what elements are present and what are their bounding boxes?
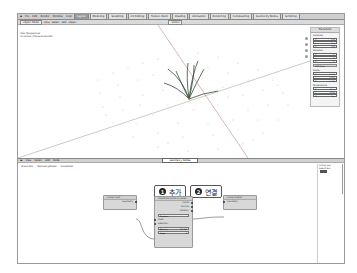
viewport-info: User Perspective (1) Grass | Plane.Grass… (20, 32, 53, 38)
rotation-z-field[interactable]: Z0° (313, 60, 337, 63)
menu-help[interactable]: Help (65, 14, 73, 19)
menu-render[interactable]: Render (39, 14, 50, 19)
pan-icon[interactable] (305, 43, 308, 46)
mode-dropdown[interactable]: Object Mode (20, 20, 42, 25)
menu-view[interactable]: View (44, 21, 50, 24)
ortho-icon[interactable] (305, 55, 308, 58)
rotation-output-socket[interactable]: Rotation (155, 209, 192, 213)
tab-sculpting[interactable]: Sculpting (108, 13, 126, 20)
transform-panel: Transform Location X0 m Y0 m Z0 m Rotati… (310, 27, 340, 107)
blender-window: ◆ File Edit Render Window Help Layout Mo… (17, 13, 345, 264)
breadcrumb-tree[interactable]: GrassField (61, 165, 73, 168)
menu-window[interactable]: Window (52, 14, 64, 19)
geometry-output-socket[interactable]: Geometry (104, 200, 136, 204)
menu-edit[interactable]: Edit (31, 14, 38, 19)
node-menu-add[interactable]: Add (45, 159, 50, 162)
node-sidebar: Active Tool Select Box (317, 164, 339, 264)
seed-field[interactable]: Seed0 (158, 231, 189, 234)
scene-render (18, 25, 344, 158)
group-input-node[interactable]: Group Input Geometry (103, 195, 137, 210)
sidebar-scrollbar[interactable] (342, 164, 343, 194)
tab-geometry-nodes[interactable]: Geometry Nodes (253, 13, 281, 20)
rotation-mode-dropdown[interactable]: XYZ Euler (313, 64, 337, 67)
editor-type-icon[interactable]: ▣ (20, 159, 22, 162)
node-menu-view[interactable]: View (25, 159, 31, 162)
dimensions-z-field[interactable]: Z0 m (313, 94, 337, 97)
selection-input-socket[interactable]: Selection (155, 222, 192, 226)
grass-object (164, 61, 218, 99)
blender-logo-icon[interactable]: ◆ (19, 14, 23, 19)
breadcrumb: Grass.001 GeometryNodes GrassField (21, 165, 73, 168)
navigation-gizmo[interactable] (305, 37, 308, 58)
tab-scripting[interactable]: Scripting (282, 13, 300, 20)
menu-file[interactable]: File (24, 14, 30, 19)
node-menu-select[interactable]: Select (34, 159, 42, 162)
tab-compositing[interactable]: Compositing (230, 13, 252, 20)
menu-select[interactable]: Select (52, 21, 60, 24)
orientation-dropdown[interactable]: Global (168, 20, 182, 25)
menu-add[interactable]: Add (61, 21, 66, 24)
callout-connect: 2 연결 (190, 185, 222, 198)
distribute-mode-dropdown[interactable]: Random (158, 214, 189, 217)
geometry-input-socket[interactable]: Geometry (224, 200, 256, 204)
tab-uv-editing[interactable]: UV Editing (128, 13, 148, 20)
density-field[interactable]: Density10.000 (158, 227, 189, 230)
zoom-icon[interactable] (305, 37, 308, 40)
tab-modeling[interactable]: Modeling (90, 13, 108, 20)
tab-rendering[interactable]: Rendering (210, 13, 229, 20)
group-output-node[interactable]: Group Output Geometry (223, 195, 257, 210)
breadcrumb-modifier[interactable]: GeometryNodes (37, 165, 56, 168)
tool-button[interactable] (320, 170, 327, 173)
camera-icon[interactable] (305, 49, 308, 52)
menu-object[interactable]: Object (68, 21, 76, 24)
tab-texture-paint[interactable]: Texture Paint (148, 13, 171, 20)
sidebar-tool-item[interactable]: Select Box (318, 167, 339, 170)
tab-layout[interactable]: Layout (74, 13, 89, 20)
tab-animation[interactable]: Animation (189, 13, 208, 20)
3d-viewport[interactable]: User Perspective (1) Grass | Plane.Grass… (18, 25, 344, 158)
breadcrumb-object[interactable]: Grass.001 (21, 165, 33, 168)
distribute-points-node[interactable]: Distribute Points on Faces Points Normal… (154, 196, 193, 248)
node-menu-node[interactable]: Node (53, 159, 60, 162)
